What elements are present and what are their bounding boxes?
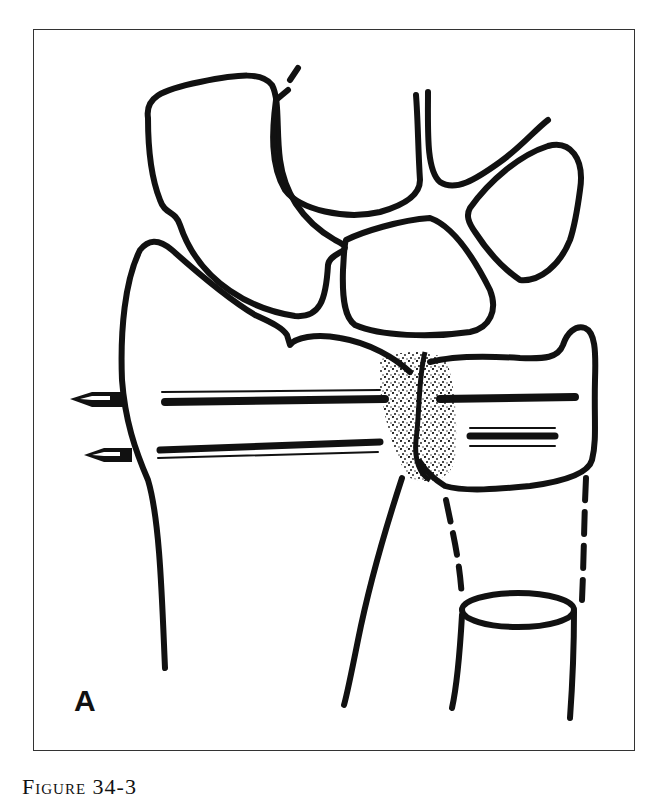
capitate-bone <box>343 218 493 335</box>
lunate-upper-outline <box>273 68 420 215</box>
caption-number: 34-3 <box>93 774 137 798</box>
panel-label: A <box>74 684 96 718</box>
ulna-shaft-right <box>570 612 574 718</box>
scaphoid-bone <box>148 76 345 317</box>
ulna-dashed-right <box>582 478 586 600</box>
figure-caption: Figure 34-3 <box>22 774 137 798</box>
caption-label: Figure <box>22 774 86 798</box>
radius-shaft-right-edge <box>344 478 402 705</box>
triquetrum-bone <box>468 145 581 280</box>
ulna-shaft-left <box>452 615 462 708</box>
hamate-outline <box>428 92 548 186</box>
pin-tips <box>70 392 132 462</box>
upper-pin-shaft <box>165 397 575 402</box>
lower-pin-shaft <box>160 436 555 450</box>
ulna-cross-section <box>462 593 574 627</box>
ulna-dashed-left <box>446 500 462 600</box>
